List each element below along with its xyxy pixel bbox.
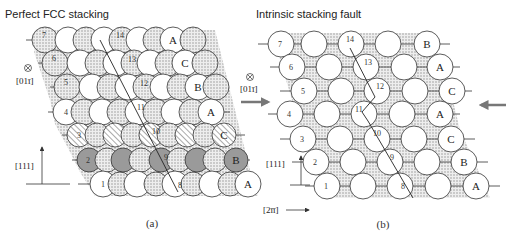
svg-text:2: 2	[313, 158, 317, 167]
svg-text:7: 7	[42, 31, 46, 40]
svg-text:A: A	[436, 108, 444, 120]
panel-b-direction-label: [01ī]	[240, 84, 258, 94]
svg-text:6: 6	[52, 54, 56, 63]
svg-text:A: A	[244, 178, 252, 190]
svg-text:8: 8	[178, 181, 182, 190]
svg-text:13: 13	[128, 55, 136, 64]
panel-a-vertical-axis-label: [111]	[15, 161, 34, 171]
panel-a-title: Perfect FCC stacking	[5, 8, 109, 20]
svg-text:B: B	[232, 154, 239, 166]
panel-b-caption: (b)	[377, 218, 390, 231]
svg-text:4: 4	[287, 110, 291, 119]
svg-text:3: 3	[300, 135, 304, 144]
svg-text:5: 5	[301, 87, 305, 96]
svg-text:12: 12	[140, 79, 148, 88]
panel-b: Intrinsic stacking fault	[240, 8, 506, 231]
svg-text:A: A	[436, 61, 444, 73]
svg-text:3: 3	[77, 131, 81, 140]
svg-text:B: B	[460, 156, 467, 168]
svg-text:10: 10	[373, 129, 381, 138]
panel-b-out-of-page-symbol	[247, 74, 254, 81]
svg-text:B: B	[194, 81, 201, 93]
panel-a-layer-1	[90, 171, 261, 197]
svg-text:C: C	[220, 129, 227, 141]
svg-text:C: C	[448, 85, 455, 97]
svg-text:1: 1	[324, 182, 328, 191]
panel-b-vertical-axis-label: [111]	[266, 159, 285, 169]
panel-a-layer-2	[77, 148, 248, 172]
svg-text:A: A	[472, 180, 480, 192]
svg-text:14: 14	[346, 35, 354, 44]
stacking-fault-figure: Perfect FCC stacking	[0, 0, 517, 243]
svg-text:7: 7	[278, 40, 282, 49]
svg-text:14: 14	[116, 31, 124, 40]
svg-text:B: B	[423, 38, 430, 50]
svg-text:C: C	[181, 57, 188, 69]
svg-text:13: 13	[364, 58, 372, 67]
panel-a-direction-label: [01ī]	[16, 76, 34, 86]
svg-text:C: C	[447, 133, 454, 145]
svg-text:2: 2	[86, 156, 90, 165]
svg-text:10: 10	[152, 127, 160, 136]
svg-text:A: A	[207, 106, 215, 118]
panel-a-caption: (a)	[146, 217, 159, 230]
svg-text:5: 5	[64, 78, 68, 87]
svg-text:9: 9	[164, 153, 168, 162]
svg-text:11: 11	[137, 103, 145, 112]
panel-b-horizontal-axis-label: [2īī]	[263, 205, 279, 215]
panel-a-out-of-page-symbol	[25, 65, 32, 72]
svg-text:12: 12	[376, 82, 384, 91]
svg-text:11: 11	[355, 105, 363, 114]
svg-text:A: A	[169, 34, 177, 46]
svg-text:4: 4	[64, 108, 68, 117]
panel-b-title: Intrinsic stacking fault	[256, 8, 361, 20]
svg-text:8: 8	[401, 182, 405, 191]
svg-text:9: 9	[390, 153, 394, 162]
svg-text:1: 1	[101, 180, 105, 189]
svg-text:6: 6	[289, 63, 293, 72]
panel-a: Perfect FCC stacking	[5, 8, 261, 230]
